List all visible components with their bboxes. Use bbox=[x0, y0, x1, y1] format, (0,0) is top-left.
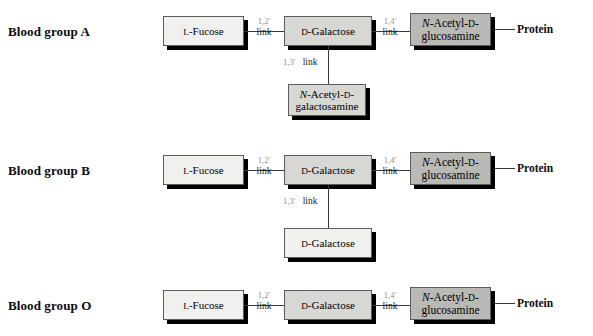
row-blood-group-a: Blood group A L-Fucose 1,2′ link D-Galac… bbox=[0, 0, 593, 140]
molecule-box-branch-galactose-b[interactable]: D-Galactose bbox=[284, 228, 372, 258]
group-label-b: Blood group B bbox=[8, 163, 90, 179]
group-label-a: Blood group A bbox=[8, 24, 90, 40]
link-word-14-a: link bbox=[373, 27, 407, 38]
connector-glcnac-protein-a bbox=[495, 29, 515, 30]
molecule-label-galactose-b: D-Galactose bbox=[285, 164, 371, 176]
molecule-label-galactose-a: D-Galactose bbox=[285, 25, 371, 37]
molecule-label-glcnac-o: N-Acetyl-D- glucosamine bbox=[411, 291, 490, 317]
link-number-13-b: 1,3′ bbox=[283, 196, 295, 206]
protein-label-a: Protein bbox=[517, 23, 553, 35]
molecule-box-fucose-o[interactable]: L-Fucose bbox=[163, 290, 244, 320]
group-label-o: Blood group O bbox=[8, 298, 91, 314]
row-blood-group-b: Blood group B L-Fucose 1,2′ link D-Galac… bbox=[0, 139, 593, 269]
link-number-12-a: 1,2′ bbox=[247, 17, 281, 27]
molecule-label-fucose-o: L-Fucose bbox=[164, 299, 243, 311]
molecule-label-branch-galactose-b: D-Galactose bbox=[285, 237, 371, 249]
molecule-box-galactose-b[interactable]: D-Galactose bbox=[284, 155, 372, 185]
molecule-box-glcnac-o[interactable]: N-Acetyl-D- glucosamine bbox=[410, 287, 491, 320]
connector-glcnac-protein-o bbox=[495, 303, 515, 304]
molecule-box-glcnac-b[interactable]: N-Acetyl-D- glucosamine bbox=[410, 152, 491, 185]
molecule-box-galactose-a[interactable]: D-Galactose bbox=[284, 16, 372, 46]
link-number-12-b: 1,2′ bbox=[247, 156, 281, 166]
molecule-label-galactose-o: D-Galactose bbox=[285, 299, 371, 311]
link-label-12-a: 1,2′ link bbox=[247, 17, 281, 38]
link-number-14-o: 1,4′ bbox=[373, 291, 407, 301]
link-label-13-b: 1,3′ link bbox=[283, 196, 373, 207]
molecule-box-galactose-o[interactable]: D-Galactose bbox=[284, 290, 372, 320]
link-number-13-a: 1,3′ bbox=[283, 57, 295, 67]
link-number-12-o: 1,2′ bbox=[247, 291, 281, 301]
molecule-label-fucose-b: L-Fucose bbox=[164, 164, 243, 176]
row-blood-group-o: Blood group O L-Fucose 1,2′ link D-Galac… bbox=[0, 279, 593, 336]
molecule-box-fucose-b[interactable]: L-Fucose bbox=[163, 155, 244, 185]
connector-glcnac-protein-b bbox=[495, 168, 515, 169]
link-label-12-b: 1,2′ link bbox=[247, 156, 281, 177]
link-label-14-a: 1,4′ link bbox=[373, 17, 407, 38]
link-word-12-o: link bbox=[247, 301, 281, 312]
link-word-12-a: link bbox=[247, 27, 281, 38]
protein-label-b: Protein bbox=[517, 162, 553, 174]
molecule-box-fucose-a[interactable]: L-Fucose bbox=[163, 16, 244, 46]
link-word-14-o: link bbox=[373, 301, 407, 312]
link-number-14-a: 1,4′ bbox=[373, 17, 407, 27]
link-number-14-b: 1,4′ bbox=[373, 156, 407, 166]
protein-label-o: Protein bbox=[517, 297, 553, 309]
link-word-13-b: link bbox=[303, 196, 318, 206]
molecule-box-glcnac-a[interactable]: N-Acetyl-D- glucosamine bbox=[410, 13, 491, 46]
molecule-box-galnac-a[interactable]: N-Acetyl-D- galactosamine bbox=[288, 84, 366, 116]
link-word-12-b: link bbox=[247, 166, 281, 177]
molecule-label-galnac-a: N-Acetyl-D- galactosamine bbox=[289, 88, 365, 113]
link-word-13-a: link bbox=[303, 57, 318, 67]
molecule-label-glcnac-a: N-Acetyl-D- glucosamine bbox=[411, 17, 490, 43]
link-label-14-b: 1,4′ link bbox=[373, 156, 407, 177]
link-label-12-o: 1,2′ link bbox=[247, 291, 281, 312]
molecule-label-fucose-a: L-Fucose bbox=[164, 25, 243, 37]
link-label-13-a: 1,3′ link bbox=[283, 57, 373, 68]
link-word-14-b: link bbox=[373, 166, 407, 177]
molecule-label-glcnac-b: N-Acetyl-D- glucosamine bbox=[411, 156, 490, 182]
link-label-14-o: 1,4′ link bbox=[373, 291, 407, 312]
